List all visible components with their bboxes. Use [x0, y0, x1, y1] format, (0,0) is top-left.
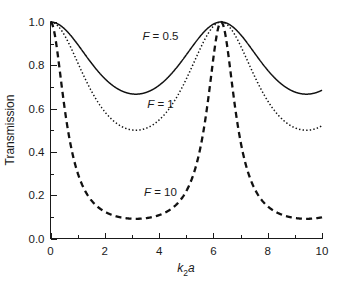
- x-tick-label: 10: [316, 245, 329, 257]
- annotation-f-10: F = 10: [144, 186, 177, 198]
- chart-canvas: 0246810 0.00.20.40.60.81.0 F = 0.5F = 1F…: [0, 0, 343, 286]
- y-tick-labels: 0.00.20.40.60.81.0: [29, 16, 46, 245]
- curve-annotations: F = 0.5F = 1F = 10: [142, 30, 178, 198]
- x-title-a: a: [188, 261, 195, 275]
- data-curves: [51, 22, 323, 219]
- x-axis-title: k2a: [177, 261, 195, 278]
- annotation-value: = 10: [151, 186, 177, 198]
- x-tick-labels: 0246810: [47, 245, 328, 257]
- x-tick-label: 0: [47, 245, 53, 257]
- y-axis-title: Transmission: [3, 95, 17, 166]
- annotation-f-1: F = 1: [147, 98, 174, 110]
- annotation-value: = 1: [154, 98, 174, 110]
- x-tick-label: 8: [264, 245, 270, 257]
- y-tick-label: 0.6: [29, 103, 45, 115]
- y-axis-ticks: [51, 23, 57, 240]
- transmission-chart-figure: 0246810 0.00.20.40.60.81.0 F = 0.5F = 1F…: [0, 0, 343, 286]
- curve-f-10: [51, 22, 323, 219]
- x-tick-label: 2: [102, 245, 108, 257]
- y-tick-label: 1.0: [29, 16, 45, 28]
- x-tick-label: 6: [210, 245, 216, 257]
- x-axis-ticks: [52, 233, 323, 239]
- y-tick-label: 0.0: [29, 233, 45, 245]
- y-tick-label: 0.4: [29, 146, 46, 158]
- x-tick-label: 4: [156, 245, 163, 257]
- curve-f-1: [51, 22, 323, 130]
- annotation-value: = 0.5: [149, 30, 178, 42]
- y-tick-label: 0.8: [29, 59, 45, 71]
- y-tick-label: 0.2: [29, 189, 45, 201]
- annotation-f-0-5: F = 0.5: [142, 30, 178, 42]
- curve-f-0-5: [51, 22, 323, 94]
